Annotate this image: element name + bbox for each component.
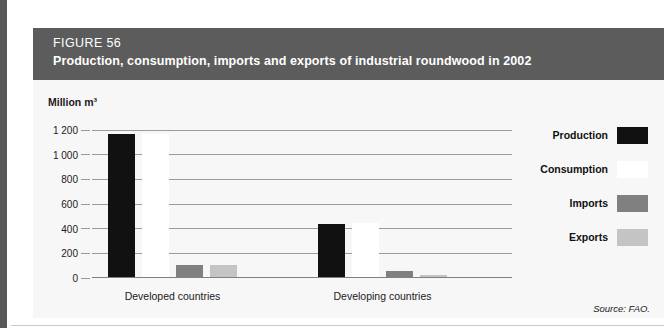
- y-axis-tick-mark: [81, 253, 90, 254]
- left-edge-gap: [7, 0, 11, 328]
- bar-production-developed-countries: [108, 134, 135, 277]
- x-axis-category-label: Developing countries: [333, 290, 431, 302]
- y-axis-tick-label: 1 200: [53, 125, 78, 136]
- chart-legend: ProductionConsumptionImportsExports: [516, 122, 648, 258]
- bar-consumption-developed-countries: [142, 134, 169, 277]
- bar-exports-developing-countries: [420, 275, 447, 277]
- y-axis-tick-mark: [81, 278, 90, 279]
- legend-swatch: [617, 161, 648, 178]
- y-axis-tick-mark: [81, 228, 90, 229]
- legend-item-imports: Imports: [516, 190, 648, 216]
- y-axis-tick-mark: [81, 204, 90, 205]
- legend-label: Consumption: [540, 163, 608, 175]
- bar-exports-developed-countries: [210, 265, 237, 277]
- figure-number: FIGURE 56: [53, 35, 664, 52]
- bar-imports-developing-countries: [386, 271, 413, 277]
- y-axis-tick-mark: [81, 179, 90, 180]
- x-axis-line: [92, 277, 512, 278]
- figure-container: FIGURE 56 Production, consumption, impor…: [0, 0, 664, 328]
- legend-label: Imports: [569, 197, 608, 209]
- legend-item-consumption: Consumption: [516, 156, 648, 182]
- bar-production-developing-countries: [318, 224, 345, 277]
- legend-item-production: Production: [516, 122, 648, 148]
- bar-consumption-developing-countries: [352, 223, 379, 277]
- gridline: [92, 130, 512, 131]
- x-axis-category-label: Developed countries: [125, 290, 221, 302]
- y-axis-unit-label: Million m³: [48, 96, 97, 108]
- y-axis-tick-label: 200: [61, 248, 78, 259]
- y-axis-tick-label: 600: [61, 199, 78, 210]
- legend-label: Exports: [569, 231, 608, 243]
- bar-imports-developed-countries: [176, 265, 203, 277]
- legend-swatch: [617, 127, 648, 144]
- bottom-divider: [11, 325, 664, 326]
- legend-swatch: [617, 229, 648, 246]
- figure-header: FIGURE 56 Production, consumption, impor…: [33, 28, 664, 80]
- y-axis-tick-label: 1 000: [53, 149, 78, 160]
- y-axis-tick-mark: [81, 130, 90, 131]
- plot-area: 02004006008001 0001 200Developed countri…: [92, 130, 512, 278]
- y-axis-tick-label: 800: [61, 174, 78, 185]
- y-axis-tick-label: 0: [72, 273, 78, 284]
- legend-swatch: [617, 195, 648, 212]
- source-note: Source: FAO.: [593, 303, 650, 314]
- figure-title: Production, consumption, imports and exp…: [53, 52, 664, 71]
- legend-item-exports: Exports: [516, 224, 648, 250]
- legend-label: Production: [553, 129, 608, 141]
- y-axis-tick-mark: [81, 154, 90, 155]
- y-axis-tick-label: 400: [61, 223, 78, 234]
- left-edge-bar: [0, 0, 7, 328]
